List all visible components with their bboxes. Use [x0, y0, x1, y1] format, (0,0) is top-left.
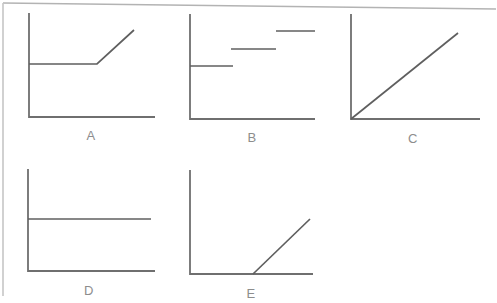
graph-c [351, 14, 480, 119]
graph-b [190, 14, 315, 119]
graph-d [28, 169, 155, 271]
graph-a [29, 13, 155, 117]
graph-c-label: C [408, 131, 418, 146]
graph-e-curve-1 [253, 219, 310, 274]
graph-a-axes [29, 13, 155, 117]
graph-e [190, 170, 313, 274]
border-top [3, 3, 496, 9]
page-border [3, 3, 496, 296]
graph-a-label: A [86, 128, 95, 143]
graph-a-curve-1 [29, 30, 134, 64]
graph-d-axes [28, 169, 155, 271]
graph-e-label: E [246, 286, 255, 301]
graphs-svg [0, 0, 497, 303]
scanned-figure-page: A B C D E [0, 0, 497, 303]
graph-e-axes [190, 170, 313, 274]
graph-c-curve-1 [351, 33, 458, 119]
graph-b-label: B [247, 130, 256, 145]
graph-d-label: D [84, 283, 94, 298]
